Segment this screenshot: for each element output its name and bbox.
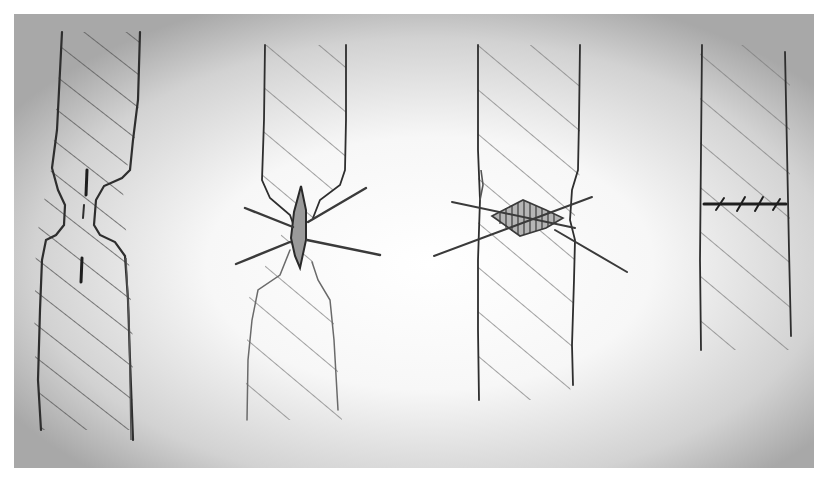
crack-line-lower <box>81 258 82 282</box>
panel-4-sutured-strip <box>695 40 795 360</box>
crack-line-upper <box>86 170 87 195</box>
sketch-paper <box>0 0 826 482</box>
sketch-canvas <box>0 0 826 482</box>
